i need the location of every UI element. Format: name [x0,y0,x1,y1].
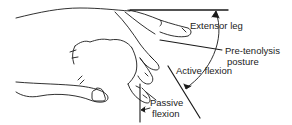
label-extensor-leg: Extensor leg [190,21,243,31]
label-passive: Passive [150,98,183,108]
label-active-flexion: Active flexion [176,66,232,76]
label-flexion: flexion [152,109,179,119]
label-pre-tenolysis: Pre-tenolysis [225,46,280,56]
flexion-diagram: Extensor leg Pre-tenolysis posture Activ… [0,0,292,125]
